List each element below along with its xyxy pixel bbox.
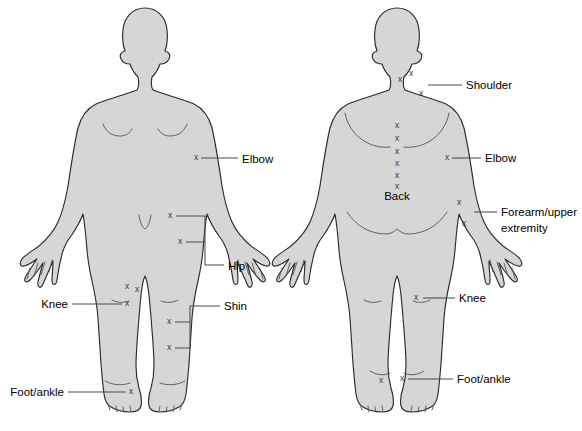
label-knee-back: Knee <box>459 292 486 304</box>
label-foot-ankle-front: Foot/ankle <box>10 386 64 398</box>
label-shoulder-back: Shoulder <box>466 79 512 91</box>
body-pain-diagram: x x x x x x x x x Elbow Hip Knee Shin Fo… <box>0 0 582 431</box>
label-knee-front: Knee <box>41 298 68 310</box>
anterior-body-silhouette <box>20 8 269 412</box>
label-elbow-back: Elbow <box>485 152 517 164</box>
label-back: Back <box>384 190 410 202</box>
marker-shoulder-back-2: x <box>409 68 414 78</box>
label-hip-front: Hip <box>228 260 245 272</box>
body-diagram-canvas: x x x x x x x x x Elbow Hip Knee Shin Fo… <box>0 0 582 431</box>
label-elbow-front: Elbow <box>242 153 274 165</box>
label-foot-ankle-back: Foot/ankle <box>457 373 511 385</box>
label-shin-front: Shin <box>224 300 247 312</box>
posterior-figure: x x x x x x x x x x x x x x x Shoulder E… <box>272 8 577 412</box>
label-forearm-upper-extremity-line2: extremity <box>501 222 548 234</box>
anterior-figure: x x x x x x x x x Elbow Hip Knee Shin Fo… <box>10 8 274 412</box>
label-forearm-upper-extremity-line1: Forearm/upper <box>501 206 577 218</box>
posterior-body-silhouette <box>272 8 521 412</box>
